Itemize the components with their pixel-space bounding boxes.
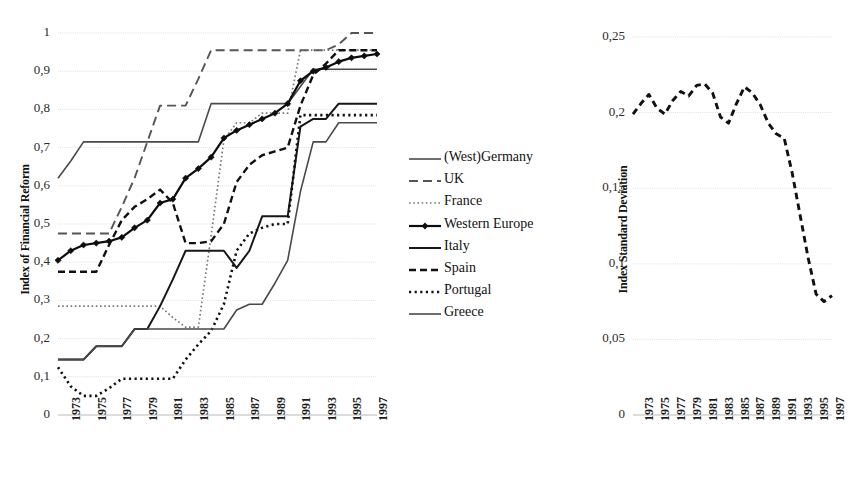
x-tick-label: 1979 <box>146 397 161 421</box>
y-tick-label: 0,6 <box>34 177 50 193</box>
y-tick-label: 0,25 <box>602 28 625 44</box>
y-tick-label: 0,15 <box>602 179 625 195</box>
x-tick-label: 1995 <box>817 397 832 421</box>
y-tick-label: 0,4 <box>34 253 50 269</box>
y-tick-label: 0,7 <box>34 139 50 155</box>
legend-swatch-icon <box>408 284 442 296</box>
series-marker-diamond <box>93 240 99 246</box>
x-tick-label: 1975 <box>95 397 110 421</box>
y-tick-label: 0,2 <box>609 104 625 120</box>
legend-swatch-icon <box>408 195 442 207</box>
series-marker-diamond <box>374 51 380 57</box>
x-tick-label: 1973 <box>69 397 84 421</box>
legend-item-west-germany[interactable]: (West)Germany <box>408 146 533 168</box>
series-line-portugal <box>58 115 377 396</box>
legend-item-label: UK <box>442 171 464 187</box>
x-tick-label: 1995 <box>350 397 365 421</box>
legend-item-italy[interactable]: Italy <box>408 235 533 257</box>
legend-swatch-icon <box>408 240 442 252</box>
legend-item-label: Spain <box>442 260 476 276</box>
x-tick-label: 1983 <box>197 397 212 421</box>
x-tick-label: 1977 <box>674 397 689 421</box>
legend-swatch-icon <box>408 218 442 230</box>
x-tick-label: 1983 <box>722 397 737 421</box>
legend-swatch-icon <box>408 151 442 163</box>
x-tick-label: 1977 <box>120 397 135 421</box>
x-tick-label: 1997 <box>376 397 391 421</box>
x-tick-label: 1979 <box>690 397 705 421</box>
chart-index-standard-deviation: Index Standard Deviation 0,250,20,150,10… <box>600 0 848 480</box>
y-tick-label: 0 <box>619 406 626 422</box>
x-tick-label: 1987 <box>248 397 263 421</box>
y-tick-label: 0,9 <box>34 62 50 78</box>
legend-item-label: Italy <box>442 238 470 254</box>
x-tick-label: 1993 <box>325 397 340 421</box>
y-tick-label: 1 <box>44 24 51 40</box>
series-line-west-germany <box>58 69 377 178</box>
legend-item-label: (West)Germany <box>442 149 533 165</box>
series-marker-diamond <box>361 53 367 59</box>
x-tick-label: 1987 <box>753 397 768 421</box>
y-tick-label: 0,3 <box>34 291 50 307</box>
legend-item-label: Portugal <box>442 282 491 298</box>
series-marker-diamond <box>348 55 354 61</box>
legend-item-label: Greece <box>442 304 484 320</box>
y-tick-label: 0,1 <box>609 255 625 271</box>
legend-item-france[interactable]: France <box>408 190 533 212</box>
chart-index-of-financial-reform: Index of Financial Reform 10,90,80,70,60… <box>0 0 600 480</box>
y-tick-label: 0,8 <box>34 100 50 116</box>
legend-item-portugal[interactable]: Portugal <box>408 279 533 301</box>
legend-item-label: Western Europe <box>442 216 533 232</box>
legend-swatch-icon <box>408 306 442 318</box>
x-tick-label: 1993 <box>801 397 816 421</box>
x-tick-label: 1981 <box>171 397 186 421</box>
x-tick-label: 1981 <box>706 397 721 421</box>
legend-swatch-icon <box>408 262 442 274</box>
x-tick-label: 1991 <box>785 397 800 421</box>
series-line-spain <box>58 50 377 272</box>
x-tick-label: 1997 <box>833 397 848 421</box>
legend-item-spain[interactable]: Spain <box>408 257 533 279</box>
chart-legend: (West)GermanyUKFranceWestern EuropeItaly… <box>408 146 533 324</box>
y-tick-label: 0,1 <box>34 368 50 384</box>
legend-item-western-europe[interactable]: Western Europe <box>408 213 533 235</box>
y-tick-label: 0,2 <box>34 330 50 346</box>
series-line-western-europe <box>58 54 377 260</box>
x-tick-label: 1973 <box>642 397 657 421</box>
y-tick-label: 0 <box>44 406 51 422</box>
x-tick-label: 1985 <box>738 397 753 421</box>
x-tick-label: 1989 <box>769 397 784 421</box>
legend-item-label: France <box>442 193 482 209</box>
series-line-uk <box>58 33 377 234</box>
x-tick-label: 1985 <box>223 397 238 421</box>
figure-root: Index of Financial Reform 10,90,80,70,60… <box>0 0 848 480</box>
y-tick-label: 0,05 <box>602 330 625 346</box>
legend-swatch-icon <box>408 173 442 185</box>
x-tick-label: 1989 <box>274 397 289 421</box>
legend-item-uk[interactable]: UK <box>408 168 533 190</box>
legend-item-greece[interactable]: Greece <box>408 301 533 323</box>
x-tick-label: 1975 <box>658 397 673 421</box>
x-tick-label: 1991 <box>299 397 314 421</box>
series-line-index-standard-deviation <box>633 84 832 302</box>
series-line-france <box>58 50 377 327</box>
y-tick-label: 0,5 <box>34 215 50 231</box>
